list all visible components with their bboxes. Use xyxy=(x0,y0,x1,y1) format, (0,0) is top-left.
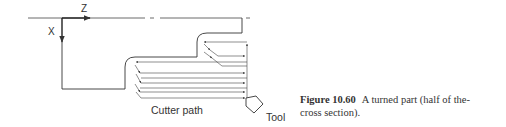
tool-icon xyxy=(246,96,263,113)
cutter-path-label: Cutter path xyxy=(151,104,203,116)
cutter-path xyxy=(135,42,247,98)
x-axis-label: X xyxy=(48,26,55,37)
axes xyxy=(62,18,90,42)
figure-caption: Figure 10.60A turned part (half of the- … xyxy=(300,93,506,119)
figure-number: Figure 10.60 xyxy=(300,94,356,105)
tool-label: Tool xyxy=(266,111,285,123)
z-axis-label: Z xyxy=(81,3,87,14)
caption-text-line1: A turned part (half of the- xyxy=(362,94,470,105)
caption-text-line2: cross section). xyxy=(300,106,506,119)
